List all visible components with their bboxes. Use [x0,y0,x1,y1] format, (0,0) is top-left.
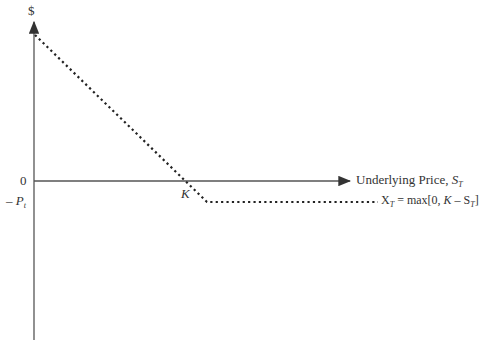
zero-tick-label: 0 [20,173,27,189]
x-axis-label: Underlying Price, ST [356,172,463,189]
y-axis-label: $ [28,3,35,19]
payoff-line [35,35,378,202]
payoff-formula-label: XT = max[0, K – ST] [381,193,479,209]
strike-label: K [181,186,190,202]
premium-tick-label: – Pt [6,193,26,210]
